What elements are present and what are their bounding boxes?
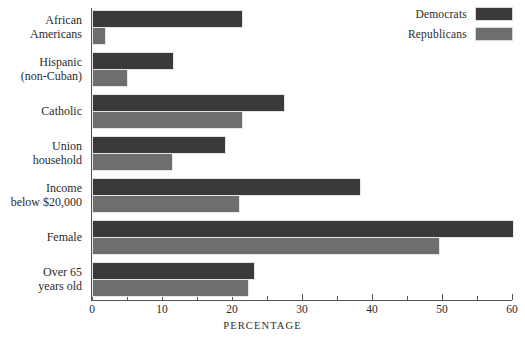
category-label-line: Americans — [0, 27, 82, 41]
bar-group: Unionhousehold — [0, 136, 525, 176]
bar-group: Incomebelow $20,000 — [0, 178, 525, 218]
bar-democrats-4 — [92, 178, 361, 196]
x-tick-label-60: 60 — [506, 303, 518, 315]
category-label: Catholic — [0, 104, 82, 118]
bar-group: Female — [0, 220, 525, 260]
bar-chart: Democrats Republicans 0102030405060 Afri… — [0, 0, 525, 351]
category-label-line: years old — [0, 279, 82, 293]
category-label-line: Over 65 — [0, 265, 82, 279]
x-axis-title: PERCENTAGE — [0, 320, 525, 331]
category-label: Over 65years old — [0, 265, 82, 293]
x-tick-label-40: 40 — [366, 303, 378, 315]
category-label-line: Female — [0, 230, 82, 244]
category-label-line: Catholic — [0, 104, 82, 118]
bar-democrats-2 — [92, 94, 285, 112]
x-tick-label-0: 0 — [89, 303, 95, 315]
category-label-line: African — [0, 13, 82, 27]
plot-area: 0102030405060 AfricanAmericansHispanic(n… — [0, 0, 525, 351]
bar-group: Over 65years old — [0, 262, 525, 302]
category-label-line: Union — [0, 139, 82, 153]
bar-group: AfricanAmericans — [0, 10, 525, 50]
category-label-line: (non-Cuban) — [0, 69, 82, 83]
x-tick-label-20: 20 — [226, 303, 238, 315]
category-label-line: below $20,000 — [0, 195, 82, 209]
x-tick-label-30: 30 — [296, 303, 308, 315]
bar-democrats-1 — [92, 52, 174, 70]
bar-group: Hispanic(non-Cuban) — [0, 52, 525, 92]
category-label: Unionhousehold — [0, 139, 82, 167]
category-label: Female — [0, 230, 82, 244]
bar-democrats-3 — [92, 136, 226, 154]
bar-republicans-0 — [92, 27, 106, 45]
bar-democrats-6 — [92, 262, 255, 280]
category-label: AfricanAmericans — [0, 13, 82, 41]
x-tick-label-50: 50 — [436, 303, 448, 315]
bar-republicans-2 — [92, 111, 243, 129]
category-label-line: household — [0, 153, 82, 167]
bar-democrats-5 — [92, 220, 514, 238]
bar-republicans-5 — [92, 237, 440, 255]
bar-democrats-0 — [92, 10, 243, 28]
bar-republicans-3 — [92, 153, 173, 171]
category-label-line: Hispanic — [0, 55, 82, 69]
category-label: Hispanic(non-Cuban) — [0, 55, 82, 83]
x-tick-label-10: 10 — [156, 303, 168, 315]
bar-republicans-1 — [92, 69, 128, 87]
bar-group: Catholic — [0, 94, 525, 134]
category-label: Incomebelow $20,000 — [0, 181, 82, 209]
bar-republicans-4 — [92, 195, 240, 213]
category-label-line: Income — [0, 181, 82, 195]
bar-republicans-6 — [92, 279, 249, 297]
